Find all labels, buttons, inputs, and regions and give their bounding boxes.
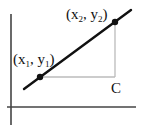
point-1-marker bbox=[37, 74, 43, 80]
corner-label: C bbox=[111, 80, 121, 96]
slope-diagram: (x1, y1) (x2, y2) C bbox=[0, 0, 142, 130]
point-2-marker bbox=[112, 19, 118, 25]
point-2-label: (x2, y2) bbox=[66, 6, 108, 24]
diagram-svg: (x1, y1) (x2, y2) C bbox=[0, 0, 142, 130]
point-1-label: (x1, y1) bbox=[13, 51, 55, 69]
